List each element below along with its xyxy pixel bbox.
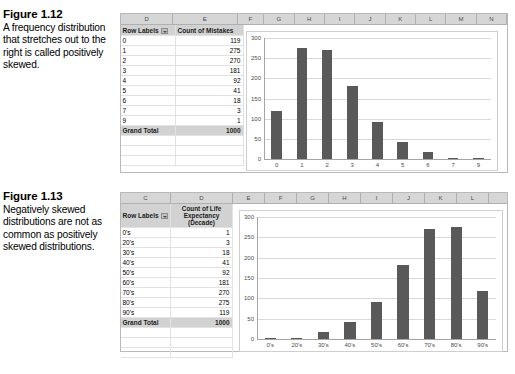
- grand-total-row[interactable]: Grand Total1000: [121, 318, 233, 328]
- row-label-cell[interactable]: 6: [121, 96, 176, 106]
- table-row[interactable]: 30's18: [121, 248, 233, 258]
- row-value-cell[interactable]: 41: [171, 258, 233, 268]
- column-header-d[interactable]: D: [121, 14, 173, 24]
- table-row[interactable]: 1275: [121, 46, 244, 56]
- value-column-header[interactable]: Count of Mistakes: [176, 25, 244, 36]
- chart-bar[interactable]: [372, 122, 383, 159]
- table-row[interactable]: 618: [121, 96, 244, 106]
- column-header-j[interactable]: J: [355, 14, 385, 24]
- row-value-cell[interactable]: 18: [176, 96, 244, 106]
- column-header-n[interactable]: N: [477, 14, 507, 24]
- row-value-cell[interactable]: 270: [171, 288, 233, 298]
- cell[interactable]: [171, 328, 233, 338]
- row-value-cell[interactable]: 1: [171, 228, 233, 238]
- row-label-cell[interactable]: 80's: [121, 298, 171, 308]
- bar-chart[interactable]: 0501001502002503000's20's30's40's50's60'…: [239, 210, 503, 352]
- column-header-row-1[interactable]: DEFGHIJKLMN: [121, 14, 507, 25]
- chart-bar[interactable]: [271, 111, 282, 159]
- row-label-cell[interactable]: 20's: [121, 238, 171, 248]
- row-value-cell[interactable]: 119: [176, 36, 244, 46]
- cell[interactable]: [176, 136, 244, 146]
- row-label-cell[interactable]: 7: [121, 106, 176, 116]
- chart-bar[interactable]: [318, 332, 329, 339]
- table-row[interactable]: 0119: [121, 36, 244, 46]
- row-label-cell[interactable]: 40's: [121, 258, 171, 268]
- cell[interactable]: [121, 136, 176, 146]
- table-row[interactable]: 60's181: [121, 278, 233, 288]
- column-header-j[interactable]: J: [393, 193, 425, 203]
- cell[interactable]: [121, 156, 176, 166]
- chart-bar[interactable]: [473, 158, 484, 159]
- table-row[interactable]: 2270: [121, 56, 244, 66]
- column-header-d[interactable]: D: [171, 193, 233, 203]
- cell[interactable]: [121, 348, 171, 358]
- row-value-cell[interactable]: 92: [171, 268, 233, 278]
- row-value-cell[interactable]: 18: [171, 248, 233, 258]
- row-value-cell[interactable]: 119: [171, 308, 233, 318]
- row-label-cell[interactable]: 50's: [121, 268, 171, 278]
- column-header-i[interactable]: I: [361, 193, 393, 203]
- column-header-e[interactable]: E: [233, 193, 265, 203]
- chart-bar[interactable]: [451, 227, 462, 339]
- column-header-g[interactable]: G: [264, 14, 294, 24]
- row-value-cell[interactable]: 1: [176, 116, 244, 126]
- chart-bar[interactable]: [297, 48, 308, 159]
- sheet-area-2[interactable]: Row LabelsCount of Life Expectancy (Deca…: [121, 204, 507, 351]
- cell[interactable]: [121, 146, 176, 156]
- chart-bar[interactable]: [322, 50, 333, 159]
- row-label-cell[interactable]: 60's: [121, 278, 171, 288]
- column-header-l[interactable]: L: [416, 14, 446, 24]
- column-header-row-2[interactable]: CDEFGHIJKL: [121, 193, 507, 204]
- chart-bar[interactable]: [265, 338, 276, 339]
- row-label-cell[interactable]: 9: [121, 116, 176, 126]
- value-column-header[interactable]: Count of Life Expectancy (Decade): [171, 204, 233, 228]
- column-header-k[interactable]: K: [425, 193, 457, 203]
- cell[interactable]: [121, 338, 171, 348]
- spreadsheet-figure-1[interactable]: DEFGHIJKLMN Row LabelsCount of Mistakes0…: [120, 13, 508, 173]
- cell[interactable]: [176, 146, 244, 156]
- row-label-cell[interactable]: 0's: [121, 228, 171, 238]
- chart-bar[interactable]: [371, 302, 382, 339]
- chart-bar[interactable]: [424, 229, 435, 339]
- row-label-cell[interactable]: 1: [121, 46, 176, 56]
- table-row[interactable]: 73: [121, 106, 244, 116]
- chart-bar[interactable]: [397, 265, 408, 339]
- cell[interactable]: [171, 348, 233, 358]
- chart-bar[interactable]: [347, 86, 358, 159]
- chart-bar[interactable]: [423, 152, 434, 159]
- chart-bar[interactable]: [344, 322, 355, 339]
- table-row[interactable]: 91: [121, 116, 244, 126]
- row-value-cell[interactable]: 275: [176, 46, 244, 56]
- table-row[interactable]: 0's1: [121, 228, 233, 238]
- row-value-cell[interactable]: 181: [176, 66, 244, 76]
- sheet-area-1[interactable]: Row LabelsCount of Mistakes0119127522703…: [121, 25, 507, 172]
- bar-chart[interactable]: 050100150200250300012345679: [246, 31, 498, 171]
- row-value-cell[interactable]: 3: [176, 106, 244, 116]
- cell[interactable]: [121, 328, 171, 338]
- row-value-cell[interactable]: 270: [176, 56, 244, 66]
- column-header-g[interactable]: G: [297, 193, 329, 203]
- row-label-cell[interactable]: 3: [121, 66, 176, 76]
- table-row[interactable]: 70's270: [121, 288, 233, 298]
- row-value-cell[interactable]: 3: [171, 238, 233, 248]
- row-value-cell[interactable]: 92: [176, 76, 244, 86]
- column-header-f[interactable]: F: [238, 14, 265, 24]
- column-header-h[interactable]: H: [295, 14, 325, 24]
- chart-bar[interactable]: [448, 158, 459, 159]
- row-value-cell[interactable]: 41: [176, 86, 244, 96]
- column-header-m[interactable]: M: [446, 14, 476, 24]
- chart-bar[interactable]: [477, 291, 488, 339]
- chart-bar[interactable]: [291, 338, 302, 339]
- table-row[interactable]: 80's275: [121, 298, 233, 308]
- row-labels-header[interactable]: Row Labels: [121, 204, 171, 228]
- column-header-l[interactable]: L: [457, 193, 489, 203]
- row-label-cell[interactable]: 70's: [121, 288, 171, 298]
- table-row[interactable]: 3181: [121, 66, 244, 76]
- column-header-c[interactable]: C: [121, 193, 171, 203]
- row-label-cell[interactable]: 4: [121, 76, 176, 86]
- row-labels-header[interactable]: Row Labels: [121, 25, 176, 36]
- spreadsheet-figure-2[interactable]: CDEFGHIJKL Row LabelsCount of Life Expec…: [120, 192, 508, 352]
- filter-dropdown-icon[interactable]: [161, 28, 168, 34]
- row-label-cell[interactable]: 0: [121, 36, 176, 46]
- grand-total-row[interactable]: Grand Total1000: [121, 126, 244, 136]
